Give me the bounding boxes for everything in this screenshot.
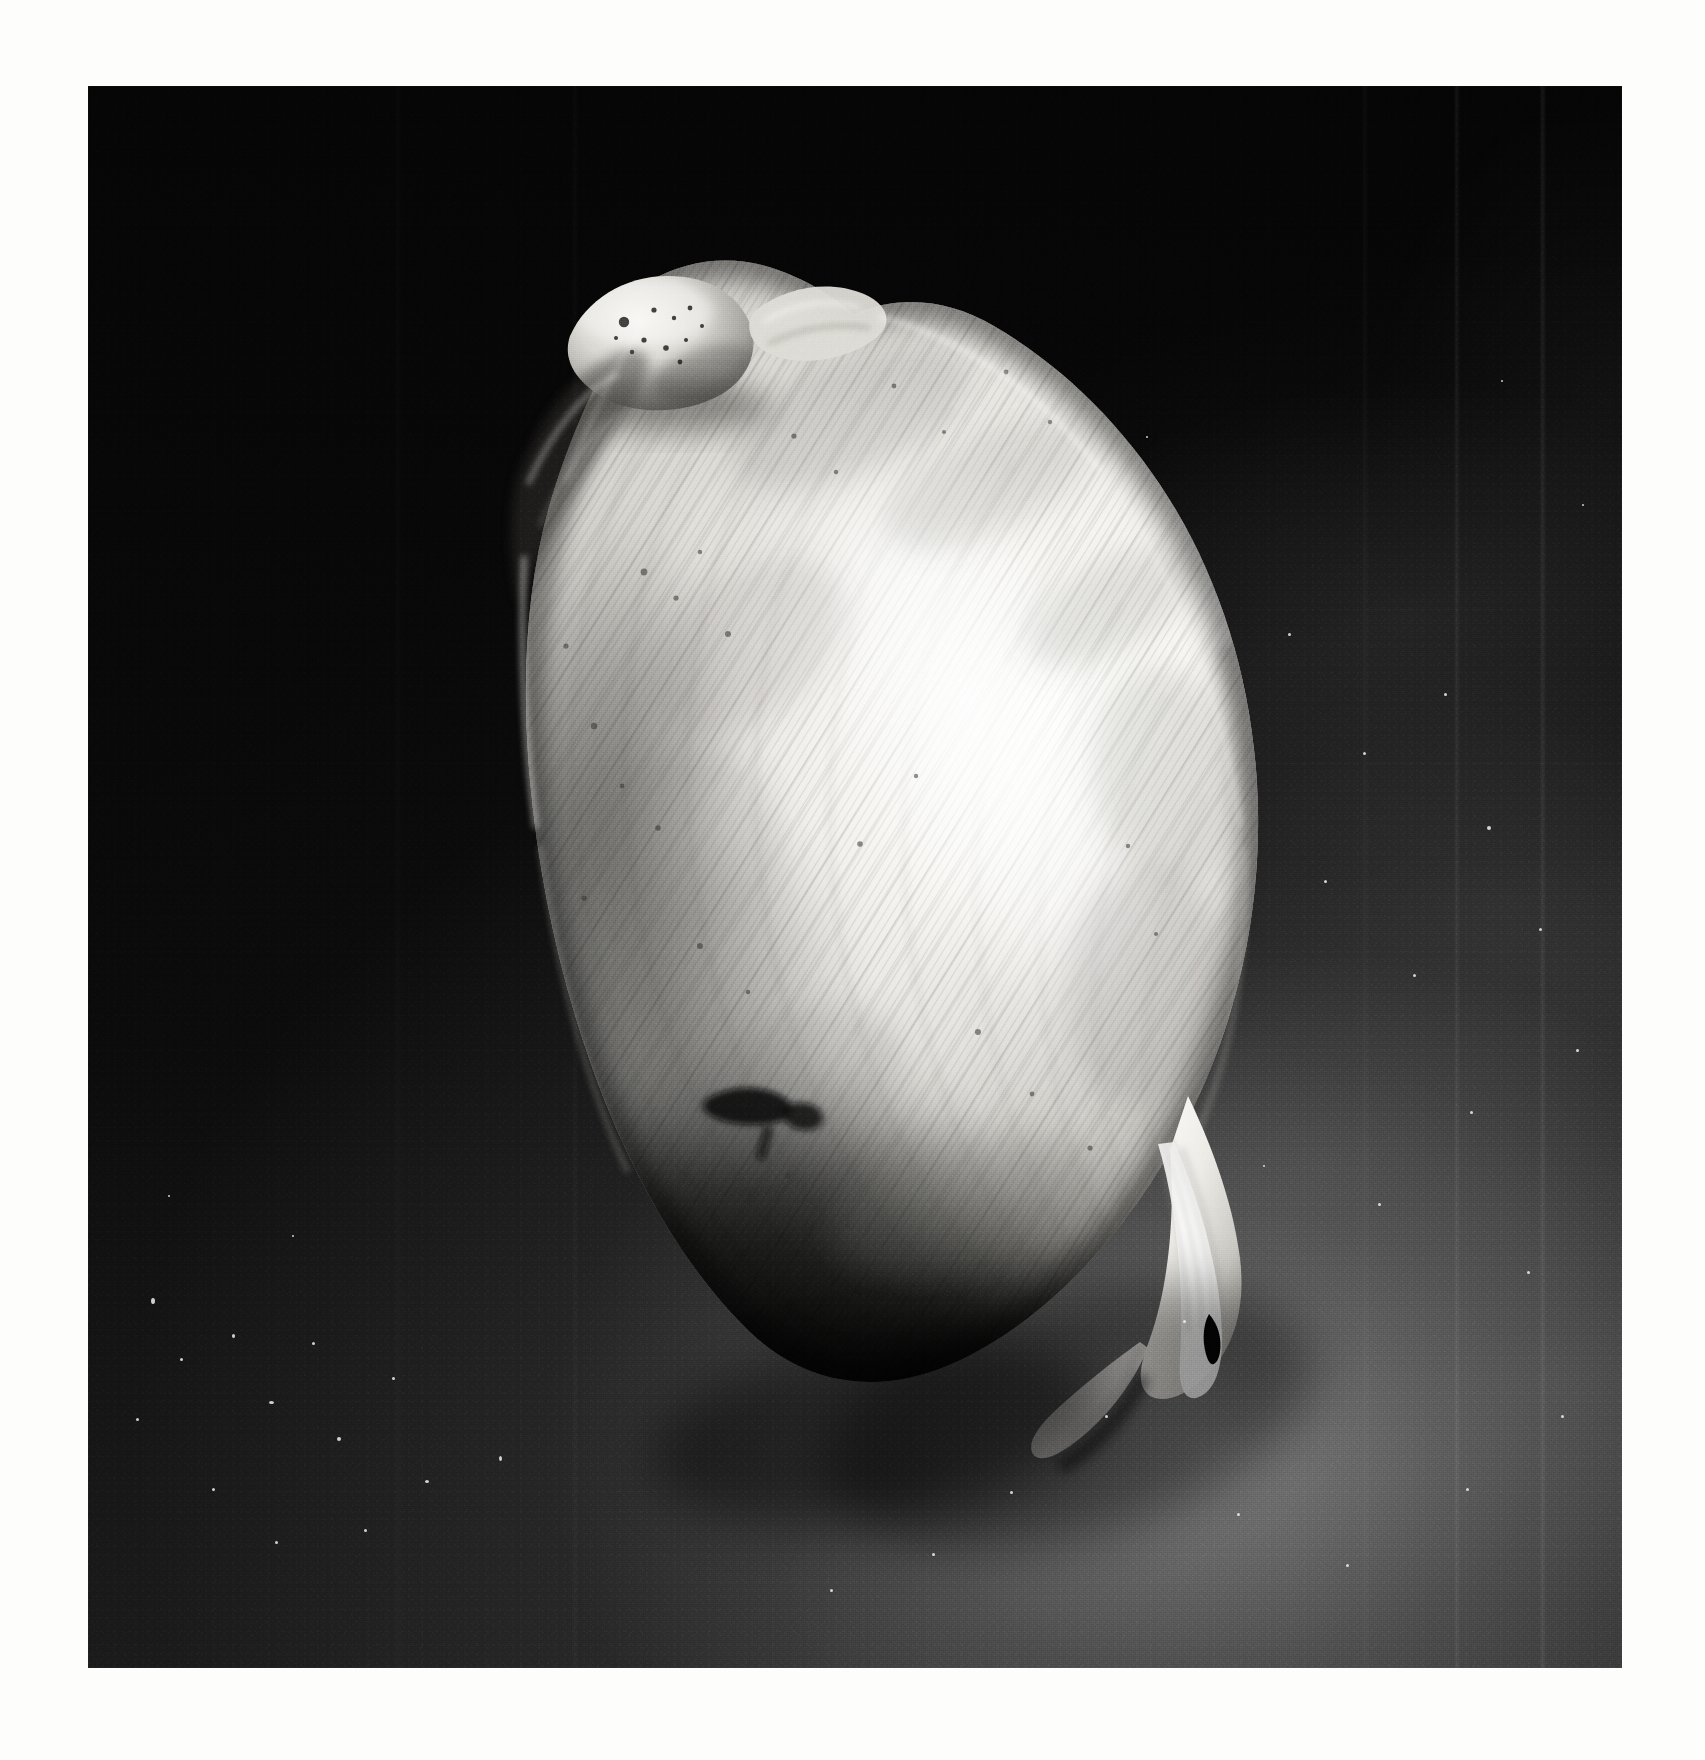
photo-page: Black and white photograph of a single s…	[0, 0, 1705, 1760]
image-caption: Black and white photograph of a single s…	[0, 0, 1, 1]
image-alt-text: A pale ovate clam shell with fine concen…	[0, 0, 1, 1]
photographic-print	[88, 86, 1622, 1668]
image-medium: black-and-white photographic print	[0, 0, 1, 1]
clam-shell-svg	[88, 86, 1622, 1668]
image-subject: bivalve clam shell	[0, 0, 1, 1]
clam-shell	[88, 86, 1622, 1668]
